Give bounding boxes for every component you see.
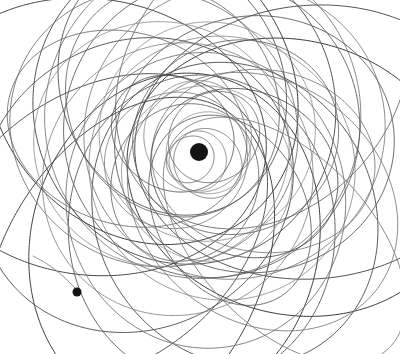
orbit-plot-canvas xyxy=(0,0,400,354)
orbit-figure: Precessing elliptical orbits about a cen… xyxy=(0,0,400,354)
